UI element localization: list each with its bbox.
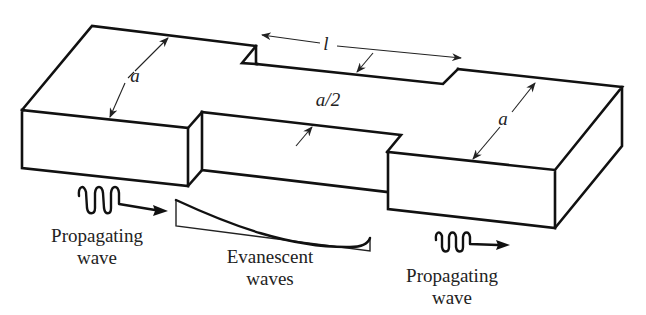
left-wave-label-line1: Propagating [51, 225, 143, 246]
left-wave-label-line2: wave [77, 247, 117, 268]
propagating-wave-right-icon [436, 233, 510, 252]
label-a-half: a/2 [316, 89, 341, 110]
dimension-a-right: a [473, 83, 535, 159]
label-a-right: a [498, 108, 508, 129]
right-wave-label-line2: wave [432, 287, 472, 308]
label-a-left: a [130, 65, 140, 86]
evanescent-label-line1: Evanescent [227, 246, 314, 267]
evanescent-decay-curve [176, 200, 370, 251]
right-waveguide-block [388, 69, 622, 228]
right-wave-label-line1: Propagating [406, 265, 498, 286]
propagating-wave-left-icon [79, 187, 168, 216]
dimension-l: l [262, 33, 461, 58]
evanescent-label-line2: waves [246, 268, 293, 289]
label-l: l [323, 33, 328, 54]
waveguide-diagram: a l a/2 a Propagating wave Evanescent wa… [0, 0, 646, 315]
